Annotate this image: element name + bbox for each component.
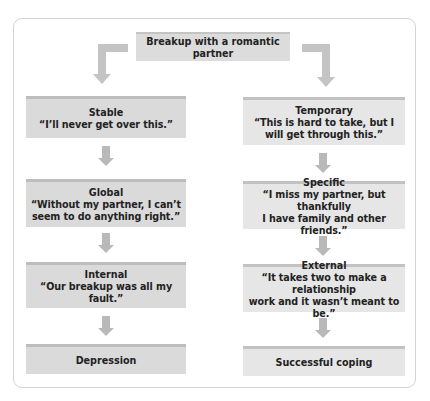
left-elbow-arrow-head xyxy=(93,74,111,84)
external-quote-line1: “It takes two to make a relationship xyxy=(243,272,405,296)
stable-box: Stable “I’ll never get over this.” xyxy=(26,96,186,138)
internal-quote: “Our breakup was all my fault.” xyxy=(26,281,186,305)
external-title: External xyxy=(301,260,346,272)
specific-title: Specific xyxy=(303,177,345,189)
right-elbow-arrow-head xyxy=(317,77,335,87)
global-box: Global “Without my partner, I can’t seem… xyxy=(26,179,186,227)
down-arrow-icon xyxy=(316,153,330,174)
internal-box: Internal “Our breakup was all my fault.” xyxy=(26,262,186,308)
down-arrow-icon xyxy=(99,146,113,167)
down-arrow-icon xyxy=(316,236,330,257)
left-elbow-arrow-vertical xyxy=(98,44,106,74)
global-title: Global xyxy=(89,187,123,199)
successful-coping-label: Successful coping xyxy=(276,357,373,369)
stable-title: Stable xyxy=(89,107,124,119)
internal-title: Internal xyxy=(85,269,128,281)
specific-quote-line1: “I miss my partner, but thankfully xyxy=(243,189,405,213)
root-box: Breakup with a romantic partner xyxy=(136,32,290,61)
specific-box: Specific “I miss my partner, but thankfu… xyxy=(243,181,405,229)
right-elbow-arrow-vertical xyxy=(322,44,330,77)
down-arrow-icon xyxy=(99,233,113,254)
successful-coping-outcome-box: Successful coping xyxy=(243,346,405,376)
depression-outcome-box: Depression xyxy=(26,344,186,374)
stable-quote: “I’ll never get over this.” xyxy=(39,119,173,131)
global-quote-line2: seem to do anything right.” xyxy=(32,211,180,223)
temporary-quote-line2: will get through this.” xyxy=(265,129,383,141)
global-quote-line1: “Without my partner, I can’t xyxy=(31,199,181,211)
depression-label: Depression xyxy=(76,355,137,367)
down-arrow-icon xyxy=(99,316,113,337)
external-quote-line2: work and it wasn’t meant to be.” xyxy=(243,296,405,320)
root-label: Breakup with a romantic partner xyxy=(136,36,290,60)
external-box: External “It takes two to make a relatio… xyxy=(243,264,405,312)
specific-quote-line2: I have family and other friends.” xyxy=(243,213,405,237)
temporary-title: Temporary xyxy=(295,105,352,117)
temporary-quote-line1: “This is hard to take, but I xyxy=(254,117,394,129)
down-arrow-icon xyxy=(316,318,330,339)
temporary-box: Temporary “This is hard to take, but I w… xyxy=(243,97,405,145)
